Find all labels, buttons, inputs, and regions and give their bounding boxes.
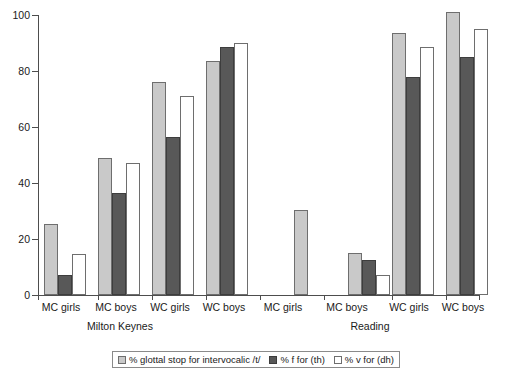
bar-group-mk-mc-boys [98, 15, 158, 295]
bar-rd-mc-girls-glottal [294, 210, 308, 295]
bar-rd-wc-boys-v-dh [474, 29, 488, 295]
bar-mk-wc-girls-f-th [166, 137, 180, 295]
y-tick-label-100: 100 [0, 10, 30, 20]
legend: % glottal stop for intervocalic /t/ % f … [112, 351, 400, 368]
x-label-rd-mc-girls: MC girls [253, 301, 313, 313]
bar-mk-wc-boys-f-th [220, 47, 234, 295]
bar-rd-mc-boys-f-th [362, 260, 376, 295]
x-label-mk-wc-girls: WC girls [140, 301, 200, 313]
region-label-reading: Reading [310, 320, 430, 332]
light-gray-swatch-icon [118, 356, 126, 364]
y-tick-label-0: 0 [0, 290, 30, 300]
bar-group-mk-wc-girls [152, 15, 212, 295]
bar-group-rd-wc-boys [446, 15, 505, 295]
x-axis-tick-4 [260, 295, 261, 300]
bar-mk-wc-girls-v-dh [180, 96, 194, 295]
x-axis-line [38, 295, 480, 296]
x-axis-tick-8 [479, 295, 480, 300]
bar-mk-mc-boys-f-th [112, 193, 126, 295]
x-label-rd-wc-girls: WC girls [379, 301, 439, 313]
x-axis-tick-0 [38, 295, 39, 300]
x-axis-tick-2 [152, 295, 153, 300]
bar-rd-wc-girls-v-dh [420, 47, 434, 295]
bar-mk-wc-boys-glottal [206, 61, 220, 295]
x-label-mk-mc-boys: MC boys [86, 301, 146, 313]
y-tick-label-80: 80 [0, 66, 30, 76]
y-tick-label-60: 60 [0, 122, 30, 132]
bar-rd-wc-boys-f-th [460, 57, 474, 295]
x-axis-tick-6 [392, 295, 393, 300]
bar-mk-mc-boys-v-dh [126, 163, 140, 295]
x-axis-tick-5 [324, 295, 325, 300]
y-tick-label-20: 20 [0, 234, 30, 244]
bar-mk-mc-girls-v-dh [72, 254, 86, 295]
legend-label-v-for-dh: % v for (dh) [345, 354, 394, 365]
bar-mk-wc-girls-glottal [152, 82, 166, 295]
y-tick-label-40: 40 [0, 178, 30, 188]
x-axis-tick-7 [446, 295, 447, 300]
x-label-mk-mc-girls: MC girls [31, 301, 91, 313]
bar-rd-wc-girls-glottal [392, 33, 406, 295]
bar-group-mk-mc-girls [44, 15, 104, 295]
x-label-rd-mc-boys: MC boys [317, 301, 377, 313]
legend-item-f-for-th: % f for (th) [269, 354, 324, 365]
bar-rd-mc-boys-glottal [348, 253, 362, 295]
x-axis-tick-3 [206, 295, 207, 300]
bar-rd-mc-boys-v-dh [376, 275, 390, 295]
legend-label-glottal-stop: % glottal stop for intervocalic /t/ [129, 354, 260, 365]
plot-area [38, 15, 480, 295]
white-swatch-icon [334, 356, 342, 364]
bar-mk-mc-girls-f-th [58, 275, 72, 295]
bar-rd-wc-girls-f-th [406, 77, 420, 295]
dark-gray-swatch-icon [269, 356, 277, 364]
x-axis-tick-1 [98, 295, 99, 300]
bar-mk-mc-girls-glottal [44, 224, 58, 295]
bar-group-rd-mc-girls [270, 15, 330, 295]
bar-rd-wc-boys-glottal [446, 12, 460, 295]
bar-group-rd-wc-girls [392, 15, 452, 295]
x-label-mk-wc-boys: WC boys [194, 301, 254, 313]
bar-mk-wc-boys-v-dh [234, 43, 248, 295]
legend-item-glottal-stop: % glottal stop for intervocalic /t/ [118, 354, 260, 365]
y-axis-labels: 100 80 60 40 20 0 [0, 0, 30, 377]
region-label-milton-keynes: Milton Keynes [60, 320, 180, 332]
legend-label-f-for-th: % f for (th) [280, 354, 324, 365]
bar-group-mk-wc-boys [206, 15, 266, 295]
bar-chart: 100 80 60 40 20 0 [0, 0, 505, 377]
legend-item-v-for-dh: % v for (dh) [334, 354, 394, 365]
bar-mk-mc-boys-glottal [98, 158, 112, 295]
bar-group-rd-mc-boys [324, 15, 384, 295]
x-label-rd-wc-boys: WC boys [433, 301, 493, 313]
